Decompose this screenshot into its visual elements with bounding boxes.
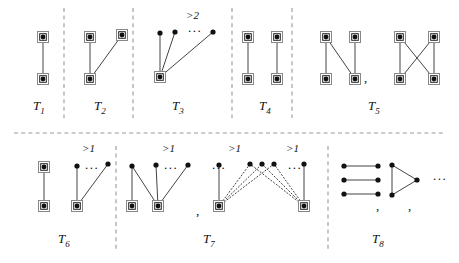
node-dot	[414, 177, 419, 182]
t7-comma: ,	[196, 203, 199, 219]
caption-t2: T2	[94, 98, 106, 116]
graph-t2	[85, 30, 128, 85]
caption-t6: T6	[58, 231, 70, 249]
node-dot-boxed	[217, 204, 222, 209]
edge-a-d	[326, 37, 355, 79]
caption-subscript: 7	[210, 239, 215, 249]
t6-multiplicity: >1	[82, 142, 95, 154]
figure-canvas	[0, 0, 459, 263]
t8-comma-1: ,	[376, 198, 379, 214]
caption-subscript: 6	[65, 239, 70, 249]
edge-lhub-p4-dotted	[219, 164, 274, 206]
graph-t3	[155, 29, 216, 82]
node-dot-boxed	[353, 35, 358, 40]
graph-t8-variant-2	[389, 162, 419, 197]
node-dot-boxed	[156, 204, 161, 209]
node-dot	[341, 177, 346, 182]
caption-subscript: 1	[40, 106, 45, 116]
node-dot	[271, 161, 276, 166]
node-dot-boxed	[42, 165, 47, 170]
t7c-ellipsis: ...	[288, 157, 302, 173]
node-dot-boxed	[432, 35, 437, 40]
caption-subscript: 8	[379, 239, 384, 249]
graph-t6	[39, 161, 111, 211]
node-dot	[389, 192, 394, 197]
node-dot-boxed	[398, 35, 403, 40]
node-dot	[157, 30, 162, 35]
graph-t7-variant-1	[127, 162, 191, 211]
edge-b-c	[392, 180, 417, 195]
graph-t8-variant-1	[341, 163, 380, 196]
node-dot-boxed	[275, 35, 280, 40]
t7c-multiplicity: >1	[286, 142, 299, 154]
node-dot-boxed	[41, 35, 46, 40]
caption-subscript: 3	[179, 106, 184, 116]
node-dot	[185, 162, 190, 167]
node-dot	[389, 162, 394, 167]
node-dot	[172, 29, 177, 34]
node-dot	[375, 177, 380, 182]
node-dot	[74, 163, 79, 168]
node-dot-boxed	[398, 77, 403, 82]
node-dot-boxed	[42, 204, 47, 209]
caption-subscript: 4	[266, 106, 271, 116]
t8-comma-2: ,	[408, 198, 411, 214]
edge-hub-p2	[156, 165, 158, 206]
node-dot-boxed	[275, 77, 280, 82]
edge-a-c	[392, 165, 417, 180]
node-dot	[341, 163, 346, 168]
node-dot-boxed	[246, 35, 251, 40]
caption-t7: T7	[203, 231, 215, 249]
node-dot-boxed	[353, 77, 358, 82]
node-dot-boxed	[324, 77, 329, 82]
forbidden-subgraph-figure: T1T2T3T4T5T6T7T8>2>1>1>1>1..............…	[0, 0, 459, 263]
node-dot-boxed	[158, 75, 163, 80]
node-dot-boxed	[246, 77, 251, 82]
t6-ellipsis: ...	[85, 157, 99, 173]
node-dot-boxed	[120, 33, 125, 38]
caption-t8: T8	[372, 231, 384, 249]
t7b-ellipsis: ...	[212, 157, 226, 173]
node-dot-boxed	[88, 35, 93, 40]
node-dot	[259, 161, 264, 166]
node-dot-boxed	[302, 204, 307, 209]
t7a-ellipsis: ...	[164, 157, 178, 173]
caption-t5: T5	[368, 98, 380, 116]
graph-t1	[38, 32, 49, 85]
node-dot-boxed	[432, 77, 437, 82]
node-dot	[105, 161, 110, 166]
graph-t5-variant-2	[395, 32, 440, 85]
caption-subscript: 2	[101, 106, 106, 116]
node-dot-boxed	[41, 77, 46, 82]
node-dot	[247, 161, 252, 166]
t7a-multiplicity: >1	[162, 142, 175, 154]
t7b-multiplicity: >1	[228, 142, 241, 154]
node-dot	[375, 163, 380, 168]
caption-t3: T3	[172, 98, 184, 116]
node-dot-boxed	[88, 77, 93, 82]
caption-subscript: 5	[375, 106, 380, 116]
node-dot	[129, 163, 134, 168]
node-dot	[341, 191, 346, 196]
node-dot	[153, 162, 158, 167]
node-dot	[210, 29, 215, 34]
graph-t5-variant-1	[321, 32, 361, 85]
t3-ellipsis: ...	[188, 20, 202, 36]
node-dot-boxed	[75, 204, 80, 209]
node-dot	[375, 191, 380, 196]
node-dot-boxed	[130, 204, 135, 209]
t8-ellipsis: ...	[433, 168, 447, 184]
t5-comma: ,	[364, 70, 367, 86]
graph-t4	[243, 32, 283, 85]
node-dot-boxed	[324, 35, 329, 40]
caption-t1: T1	[33, 98, 45, 116]
caption-t4: T4	[259, 98, 271, 116]
